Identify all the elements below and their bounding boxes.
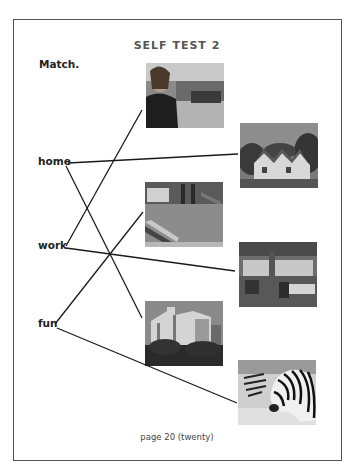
image-house [240,123,318,188]
page-title: SELF TEST 2 [0,39,354,52]
page-number: page 20 (twenty) [0,432,354,442]
image-woman-office [146,63,224,128]
image-apartment-building [145,301,223,366]
image-zebra [238,360,316,425]
word-work: work [38,239,67,251]
image-office [239,242,317,307]
word-fun: fun [38,317,58,329]
word-home: home [38,155,71,167]
image-playground [145,182,223,247]
instruction: Match. [39,58,79,70]
